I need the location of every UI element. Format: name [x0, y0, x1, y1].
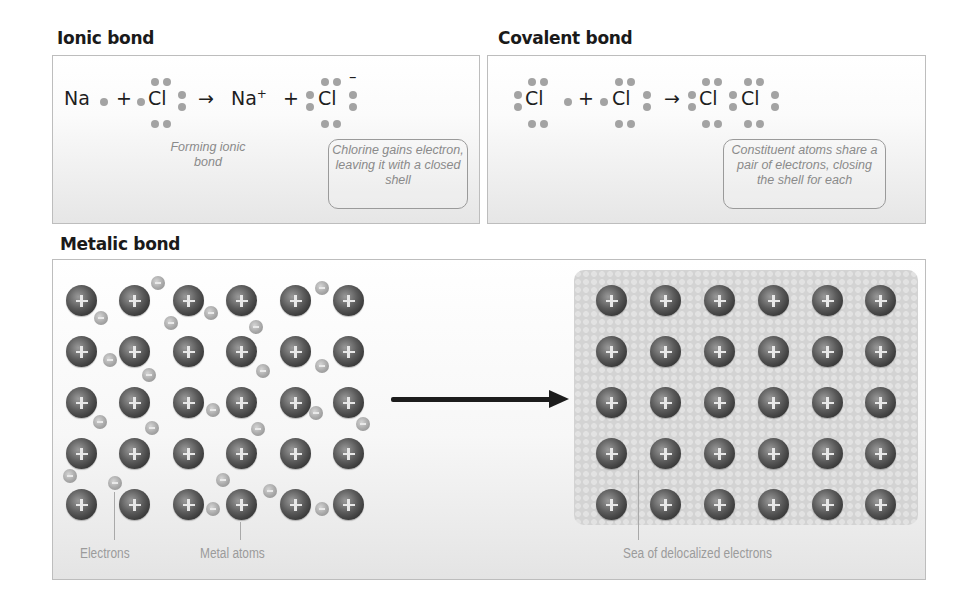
electron-dot: [528, 120, 536, 128]
metal-ion: [596, 438, 627, 469]
free-electron: [315, 359, 329, 373]
reaction-arrow: →: [664, 87, 680, 109]
electron-dot: [643, 91, 651, 99]
metal-atom: [280, 387, 311, 418]
electron-dot: [771, 91, 779, 99]
electron-dot: [514, 91, 522, 99]
metal-ion: [758, 489, 789, 520]
electron-dot: [163, 78, 171, 86]
electron-dot: [151, 120, 159, 128]
free-electron: [216, 473, 230, 487]
metal-ion: [650, 438, 681, 469]
sea-of-electrons-label: Sea of delocalized electrons: [623, 545, 772, 561]
metal-ion: [704, 387, 735, 418]
electron-dot: [333, 78, 341, 86]
electron-dot: [744, 120, 752, 128]
electron-dot: [349, 103, 357, 111]
na-ion-label: Na: [231, 87, 257, 109]
electron-dot: [514, 103, 522, 111]
free-electron: [93, 415, 107, 429]
free-electron: [263, 484, 277, 498]
metal-atom: [119, 438, 150, 469]
electron-dot: [137, 98, 145, 106]
electron-dot: [333, 120, 341, 128]
electron-dot: [702, 78, 710, 86]
metallic-bond-title: Metalic bond: [60, 234, 180, 254]
metal-atom: [280, 489, 311, 520]
electron-dot: [627, 78, 635, 86]
plus-sign: +: [116, 87, 132, 109]
metal-ion: [596, 285, 627, 316]
electron-dot: [178, 91, 186, 99]
metal-atom: [119, 336, 150, 367]
free-electron: [206, 502, 220, 516]
electron-dot: [178, 103, 186, 111]
metal-atom: [226, 438, 257, 469]
ionic-bond-panel: Na + Cl → Na+ + Cl – Forming ionic bond …: [52, 55, 480, 224]
metal-atom: [173, 285, 204, 316]
electron-dot: [540, 120, 548, 128]
metal-atom: [119, 285, 150, 316]
na-symbol: Na: [64, 87, 90, 109]
positive-charge: +: [257, 87, 267, 101]
negative-charge: –: [349, 68, 357, 86]
metallic-bond-panel: Electrons Metal atoms: [52, 259, 926, 580]
electron-dot: [321, 78, 329, 86]
metal-atom: [66, 285, 97, 316]
electron-dot: [528, 78, 536, 86]
electron-dot: [756, 78, 764, 86]
metal-atom: [66, 489, 97, 520]
cl-symbol: Cl: [148, 87, 167, 109]
metal-ion: [704, 438, 735, 469]
electron-dot: [306, 103, 314, 111]
cl-symbol: Cl: [612, 87, 631, 109]
free-electron: [142, 368, 156, 382]
electron-dot: [714, 78, 722, 86]
electron-dot: [100, 98, 108, 106]
metal-ion: [650, 489, 681, 520]
metal-atoms-pointer: [240, 522, 241, 540]
metal-atom: [333, 489, 364, 520]
na-ion-symbol: Na+: [231, 87, 267, 109]
metal-ion: [865, 336, 896, 367]
free-electron: [94, 311, 108, 325]
free-electron: [315, 281, 329, 295]
plus-sign: +: [578, 87, 594, 109]
metal-atom: [66, 336, 97, 367]
shared-electron-dot: [729, 91, 737, 99]
metal-atom: [226, 336, 257, 367]
metal-atom: [333, 285, 364, 316]
electron-dot: [306, 91, 314, 99]
ionic-callout-text: Chlorine gains electron, leaving it with…: [332, 143, 464, 188]
metal-ion: [865, 387, 896, 418]
metal-atom: [173, 489, 204, 520]
electron-dot: [643, 103, 651, 111]
free-electron: [356, 417, 370, 431]
electron-dot: [600, 98, 608, 106]
covalent-callout-text: Constituent atoms share a pair of electr…: [727, 143, 882, 188]
metal-atom: [333, 387, 364, 418]
metal-ion: [865, 438, 896, 469]
electron-dot: [744, 78, 752, 86]
metal-atom: [119, 489, 150, 520]
metal-ion: [758, 285, 789, 316]
metal-ion: [865, 489, 896, 520]
electron-dot: [321, 120, 329, 128]
free-electron: [103, 353, 117, 367]
metal-ion: [704, 285, 735, 316]
free-electron: [151, 276, 165, 290]
electron-dot: [615, 78, 623, 86]
cl-symbol: Cl: [741, 87, 760, 109]
electron-dot: [163, 120, 171, 128]
forming-ionic-bond-caption: Forming ionic bond: [168, 140, 248, 170]
electrons-label: Electrons: [80, 545, 130, 561]
metal-atom: [66, 387, 97, 418]
ionic-bond-title: Ionic bond: [57, 28, 154, 48]
reaction-arrow: →: [198, 87, 214, 109]
metal-atom: [173, 336, 204, 367]
metal-atom: [280, 336, 311, 367]
metal-atom: [226, 489, 257, 520]
metal-ion: [596, 336, 627, 367]
free-electron: [145, 421, 159, 435]
electron-dot: [756, 120, 764, 128]
